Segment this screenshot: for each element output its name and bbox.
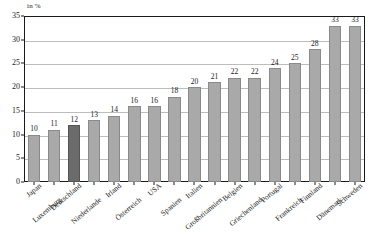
bar xyxy=(28,135,40,182)
bar-value-label: 10 xyxy=(30,125,38,133)
bar xyxy=(48,130,60,182)
bar-value-label: 12 xyxy=(70,116,78,124)
bar-value-label: 21 xyxy=(211,73,219,81)
y-axis-tick-label: 25 xyxy=(12,59,20,67)
bar-value-label: 33 xyxy=(351,16,359,24)
bar-value-label: 25 xyxy=(291,54,299,62)
bar-value-label: 22 xyxy=(251,68,259,76)
bar-value-label: 16 xyxy=(131,97,139,105)
bar xyxy=(329,26,341,183)
bar-value-label: 16 xyxy=(151,97,159,105)
y-axis-tick-label: 15 xyxy=(12,107,20,115)
x-axis-category-label: Irland xyxy=(105,182,124,199)
bar-group: 12 xyxy=(68,16,80,182)
bar-value-label: 18 xyxy=(171,87,179,95)
x-axis-labels: JapanLuxemburgDeutschlandNiederlandeIrla… xyxy=(24,182,365,248)
x-axis-category-label: Spanien xyxy=(160,196,183,217)
bar-group: 33 xyxy=(329,16,341,182)
bar-value-label: 28 xyxy=(311,40,319,48)
bar xyxy=(188,87,200,182)
bar-value-label: 33 xyxy=(331,16,339,24)
bar-group: 28 xyxy=(309,16,321,182)
bar-group: 22 xyxy=(248,16,260,182)
bar-group: 10 xyxy=(28,16,40,182)
bar-group: 20 xyxy=(188,16,200,182)
bar-group: 22 xyxy=(228,16,240,182)
bar-value-label: 20 xyxy=(191,78,199,86)
x-axis-category-label: Niederlande xyxy=(70,196,103,225)
x-axis-category-label: Finnland xyxy=(298,182,323,205)
bar-group: 25 xyxy=(289,16,301,182)
bar xyxy=(208,82,220,182)
y-axis-tick-label: 5 xyxy=(16,154,20,162)
y-axis-tick-label: 30 xyxy=(12,36,20,44)
bar xyxy=(168,97,180,182)
bar-value-label: 14 xyxy=(110,106,118,114)
bar xyxy=(248,78,260,182)
bar-group: 24 xyxy=(269,16,281,182)
y-axis-tick-label: 10 xyxy=(12,131,20,139)
y-axis-tick-label: 20 xyxy=(12,83,20,91)
bar xyxy=(228,78,240,182)
bar xyxy=(309,49,321,182)
bar-group: 21 xyxy=(208,16,220,182)
x-axis-category-label: Großbritannien xyxy=(183,196,223,231)
bar-value-label: 24 xyxy=(271,59,279,67)
bar xyxy=(128,106,140,182)
x-axis-category-label: Schweden xyxy=(335,182,363,208)
y-axis-tick-label: 0 xyxy=(16,178,20,186)
x-axis-category-label: Österreich xyxy=(114,196,143,222)
x-axis-category-label: USA xyxy=(147,182,163,197)
bar xyxy=(88,120,100,182)
bar-group: 18 xyxy=(168,16,180,182)
y-axis: 05101520253035 xyxy=(0,16,24,182)
bar-group: 16 xyxy=(148,16,160,182)
bar-series: 1011121314161618202122222425283333 xyxy=(24,16,365,182)
bar xyxy=(269,68,281,182)
x-axis-category-label: Italien xyxy=(184,182,204,200)
x-axis-category-label: Japan xyxy=(25,182,43,199)
bar-group: 14 xyxy=(108,16,120,182)
bar-value-label: 13 xyxy=(90,111,98,119)
bar xyxy=(108,116,120,182)
bar xyxy=(289,63,301,182)
bar xyxy=(148,106,160,182)
bar-group: 16 xyxy=(128,16,140,182)
chart-page: in % 05101520253035 10111213141616182021… xyxy=(0,0,379,248)
axis-unit-label: in % xyxy=(27,2,41,10)
bar-group: 33 xyxy=(349,16,361,182)
bar-value-label: 22 xyxy=(231,68,239,76)
bar-group: 11 xyxy=(48,16,60,182)
bar-value-label: 11 xyxy=(50,120,57,128)
bar-group: 13 xyxy=(88,16,100,182)
x-axis-category-label: Belgien xyxy=(221,182,244,203)
x-axis-category-label: Griechenland xyxy=(228,196,264,228)
bar xyxy=(68,125,80,182)
y-axis-tick-label: 35 xyxy=(12,12,20,20)
x-axis-category-label: Portugal xyxy=(259,182,283,204)
bar xyxy=(349,26,361,183)
